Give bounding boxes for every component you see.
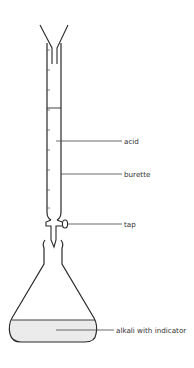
flask-liquid xyxy=(10,320,97,342)
label-acid: acid xyxy=(124,137,139,146)
label-tap: tap xyxy=(124,220,136,229)
titration-diagram: acid burette tap alkali with indicator xyxy=(0,0,194,368)
label-burette: burette xyxy=(124,170,151,179)
burette xyxy=(47,43,61,220)
label-alkali-with-indicator: alkali with indicator xyxy=(116,326,186,335)
conical-flask xyxy=(9,240,96,342)
funnel xyxy=(40,25,68,64)
leader-lines xyxy=(56,141,122,330)
tap xyxy=(46,220,68,247)
